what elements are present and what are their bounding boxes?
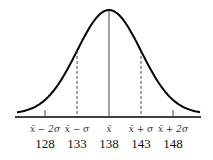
tick-symbol-label: x̄ − 2σ — [30, 124, 61, 134]
tick-value-label: 143 — [131, 136, 151, 151]
tick-value-label: 133 — [67, 136, 87, 151]
tick-value-label: 138 — [99, 136, 119, 151]
tick-value-label: 148 — [163, 136, 183, 151]
sigma-markers — [45, 10, 173, 117]
tick-symbol-label: x̄ + σ — [129, 124, 154, 134]
tick-symbol-label: x̄ − σ — [65, 124, 90, 134]
tick-symbol-label: x̄ + 2σ — [158, 124, 189, 134]
normal-distribution-chart: x̄ − 2σ128x̄ − σ133x̄138x̄ + σ143x̄ + 2σ… — [0, 0, 213, 160]
tick-value-label: 128 — [35, 136, 55, 151]
axis-labels: x̄ − 2σ128x̄ − σ133x̄138x̄ + σ143x̄ + 2σ… — [30, 124, 189, 151]
tick-symbol-label: x̄ — [106, 124, 111, 134]
